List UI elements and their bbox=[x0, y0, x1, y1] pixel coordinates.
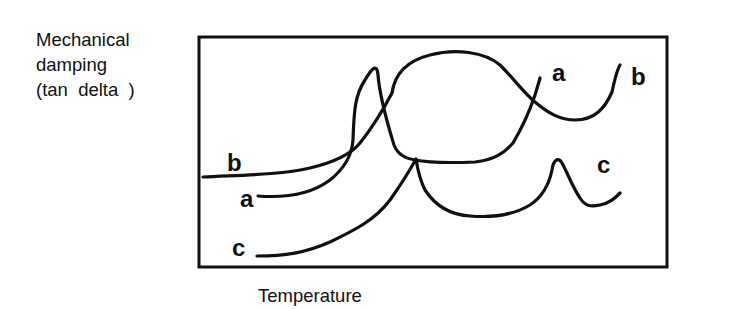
curve-c-start-label: c bbox=[232, 234, 245, 261]
plot-area: b a c a b c bbox=[0, 0, 751, 309]
curve-a-end-label: a bbox=[552, 59, 566, 86]
curve-c bbox=[257, 159, 620, 256]
curve-a bbox=[258, 68, 540, 196]
curve-b-end-label: b bbox=[631, 63, 646, 90]
curve-c-end-label: c bbox=[597, 151, 610, 178]
curve-b-start-label: b bbox=[227, 149, 242, 176]
x-axis-label: Temperature bbox=[258, 285, 362, 307]
curve-a-start-label: a bbox=[240, 185, 254, 212]
